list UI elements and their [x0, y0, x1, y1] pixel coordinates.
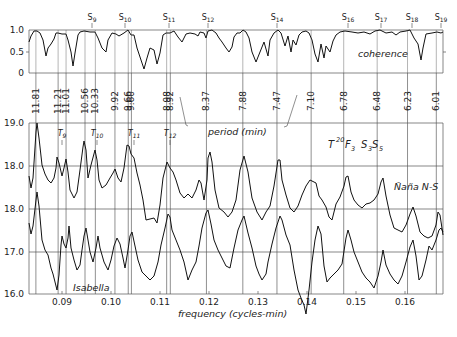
seiche-label: S10 — [119, 13, 132, 23]
tide-combination-annotation: T 20 F 3 S 3 S 5 — [328, 136, 383, 153]
period-label: 9.60 — [126, 91, 136, 111]
x-tick-label: 0.16 — [395, 297, 415, 307]
tide-labels: T9T10T11T12 — [58, 129, 177, 145]
x-tick-label: 0.15 — [346, 297, 366, 307]
frequency-x-ticks: 0.090.100.110.120.130.140.150.16 — [52, 291, 415, 307]
period-label: 7.88 — [238, 91, 248, 111]
svg-text:19.0: 19.0 — [4, 118, 24, 128]
period-bracket-left — [180, 97, 188, 126]
coherence-y-ticks: 1.0 0.5 0 — [10, 25, 25, 78]
x-tick-label: 0.12 — [199, 297, 219, 307]
seiche-label: S19 — [435, 13, 448, 23]
svg-text:0.5: 0.5 — [10, 47, 24, 57]
period-label: 11.81 — [31, 88, 41, 114]
seiche-label: S12 — [202, 13, 215, 23]
x-tick-label: 0.11 — [150, 297, 170, 307]
seiche-label: S18 — [406, 13, 419, 23]
x-tick-label: 0.09 — [52, 297, 72, 307]
isabella-label: Isabella — [73, 282, 110, 293]
period-label: 9.92 — [110, 91, 120, 111]
x-tick-label: 0.13 — [248, 297, 268, 307]
x-tick-label: 0.14 — [297, 297, 317, 307]
svg-text:1.0: 1.0 — [10, 25, 25, 35]
x-tick-label: 0.10 — [101, 297, 121, 307]
period-label: 10.33 — [90, 88, 100, 114]
period-label: 6.78 — [339, 91, 349, 111]
svg-text:T: T — [328, 139, 335, 150]
seiche-label: S11 — [163, 13, 176, 23]
period-label: 10.56 — [80, 88, 90, 114]
spectra-y-ticks: 19.0 18.0 18.0 17.0 16.0 — [4, 118, 24, 299]
tide-label: T9 — [58, 129, 67, 139]
period-labels: 11.8111.2111.0110.5610.339.929.669.608.9… — [31, 88, 441, 114]
period-bracket-right — [284, 95, 297, 127]
svg-text:0: 0 — [18, 68, 24, 78]
period-label: 8.37 — [201, 91, 211, 111]
period-axis-label: period (min) — [207, 126, 267, 137]
tide-label: T11 — [128, 129, 141, 139]
period-label: 11.01 — [61, 88, 71, 114]
spectral-figure: 1.0 0.5 0 S9S10S11S12S14S16S17S18S19 coh… — [0, 0, 457, 337]
period-label: 8.92 — [165, 91, 175, 111]
period-label: 7.47 — [272, 91, 282, 111]
frequency-axis-label: frequency (cycles-min) — [178, 308, 287, 319]
svg-text:18.0: 18.0 — [4, 204, 24, 214]
svg-text:3: 3 — [351, 145, 355, 153]
svg-text:S: S — [372, 139, 379, 150]
svg-text:18.0: 18.0 — [4, 161, 24, 171]
coherence-label: coherence — [358, 48, 408, 59]
nana-spectrum-curve — [29, 123, 443, 238]
svg-text:16.0: 16.0 — [4, 289, 24, 299]
period-reference-lines — [36, 30, 436, 294]
isabella-spectrum-curve — [29, 192, 443, 314]
nana-label: Ñaña N-S — [394, 181, 438, 192]
svg-text:5: 5 — [379, 145, 383, 153]
seiche-labels: S9S10S11S12S14S16S17S18S19 — [88, 13, 448, 28]
seiche-label: S16 — [342, 13, 355, 23]
svg-text:S: S — [361, 139, 368, 150]
period-label: 6.23 — [403, 91, 413, 111]
seiche-label: S17 — [375, 13, 388, 23]
svg-text:17.0: 17.0 — [4, 247, 24, 257]
period-label: 6.01 — [431, 91, 441, 111]
period-label: 7.10 — [306, 91, 316, 111]
seiche-label: S14 — [271, 13, 284, 23]
tide-label: T10 — [91, 129, 104, 139]
svg-text:20: 20 — [336, 136, 344, 144]
seiche-label: S9 — [88, 13, 97, 23]
period-label: 6.48 — [372, 91, 382, 111]
